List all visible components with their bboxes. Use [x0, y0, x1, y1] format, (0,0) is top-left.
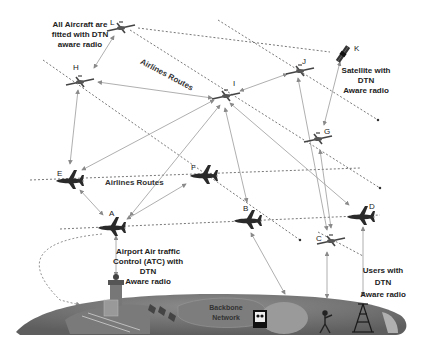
node-label-F: F [191, 163, 196, 172]
node-label-H: H [73, 63, 79, 72]
satellite-note: Satellite with DTN Aware radio [336, 66, 396, 96]
satellite-icon [335, 45, 350, 63]
airline-routes [30, 20, 380, 256]
backbone-router-icon [253, 310, 267, 328]
route-label-mid: Airlines Routes [105, 178, 164, 187]
node-label-I: I [233, 79, 235, 88]
aircraft-A [98, 217, 126, 236]
node-label-C: C [316, 234, 322, 243]
aircraft-I [212, 90, 240, 101]
node-label-D: D [369, 202, 375, 211]
node-label-G: G [324, 127, 330, 136]
backbone-network-label: Backbone Network [206, 303, 246, 323]
dtn-network-diagram [0, 0, 425, 354]
node-label-A: A [109, 209, 114, 218]
node-label-J: J [302, 57, 306, 66]
users-note: Users with DTN Aware radio [358, 266, 408, 300]
node-label-L: L [110, 18, 114, 27]
node-label-E: E [57, 169, 62, 178]
atc-link [39, 234, 102, 305]
atc-note: Airport Air traffic Control (ATC) with D… [112, 247, 184, 287]
node-label-B: B [243, 204, 248, 213]
aircraft-J [286, 65, 314, 76]
node-label-K: K [354, 44, 359, 53]
aircraft-note: All Aircraft are fitted with DTN aware r… [50, 20, 110, 50]
aircraft-H [66, 76, 94, 87]
